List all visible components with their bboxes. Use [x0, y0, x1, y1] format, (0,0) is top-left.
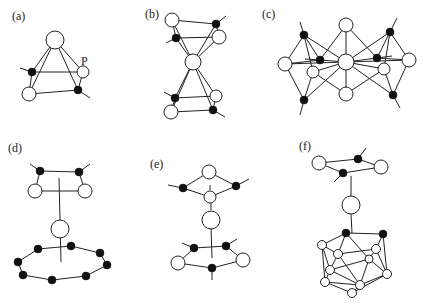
- panel-f: (f): [299, 139, 392, 298]
- filled-atom: [67, 242, 75, 250]
- filled-atom: [354, 155, 362, 163]
- filled-atom: [96, 249, 104, 257]
- panel-label-d: (d): [8, 141, 22, 155]
- filled-atom: [208, 264, 216, 272]
- open-atom: [339, 18, 353, 32]
- filled-atom: [339, 169, 347, 177]
- filled-atom: [222, 242, 230, 250]
- structure-diagram: (a) P (b): [0, 0, 425, 305]
- open-atom: [77, 66, 89, 78]
- filled-atom: [34, 245, 42, 253]
- filled-atom: [209, 106, 217, 114]
- open-atom: [46, 31, 64, 49]
- filled-atom: [74, 86, 82, 94]
- open-atom: [326, 266, 335, 275]
- panel-label-c: (c): [262, 7, 275, 21]
- panel-label-b: (b): [145, 7, 159, 21]
- open-atom: [204, 191, 216, 203]
- open-atom: [334, 250, 343, 259]
- filled-atom: [103, 261, 111, 269]
- filled-atom: [82, 272, 90, 280]
- panel-label-e: (e): [150, 157, 163, 171]
- filled-atom: [171, 94, 179, 102]
- panel-e: (e): [150, 157, 250, 280]
- open-atom: [171, 256, 185, 270]
- panel-d: (d): [8, 141, 111, 284]
- open-atom: [312, 156, 326, 170]
- open-atom: [165, 13, 179, 27]
- filled-atom: [172, 34, 180, 42]
- open-atom: [318, 241, 327, 250]
- panel-a: (a) P: [12, 9, 90, 101]
- filled-atom: [300, 96, 308, 104]
- open-atom-center: [51, 220, 69, 238]
- open-atom: [348, 289, 357, 298]
- filled-atom: [48, 276, 56, 284]
- panel-label-a: (a): [12, 9, 25, 23]
- filled-atom: [190, 244, 198, 252]
- open-atom: [164, 105, 178, 119]
- open-atom: [210, 90, 222, 102]
- open-atom: [185, 54, 201, 70]
- filled-atom: [36, 167, 44, 175]
- filled-atom: [389, 91, 397, 99]
- filled-atom: [179, 184, 187, 192]
- open-atom: [78, 184, 92, 198]
- filled-atom: [316, 56, 324, 64]
- filled-atom: [373, 54, 381, 62]
- open-atom: [383, 270, 392, 279]
- filled-atom: [19, 271, 27, 279]
- filled-atom: [75, 168, 83, 176]
- open-atom: [378, 63, 390, 75]
- filled-atom: [212, 20, 220, 28]
- panel-c: (c): [262, 7, 416, 115]
- open-atom: [236, 253, 250, 267]
- filled-atom: [386, 28, 394, 36]
- open-atom: [28, 184, 42, 198]
- open-atom: [374, 160, 388, 174]
- filled-atom: [342, 229, 350, 237]
- panel-label-f: (f): [299, 139, 311, 153]
- open-atom: [372, 245, 381, 254]
- panel-b: (b): [145, 7, 226, 119]
- open-atom: [278, 57, 292, 71]
- open-atom-center: [202, 211, 220, 229]
- filled-atom: [232, 182, 240, 190]
- open-atom: [339, 87, 353, 101]
- filled-atom: [28, 68, 36, 76]
- open-atom: [22, 87, 36, 101]
- open-atom: [402, 53, 416, 67]
- open-atom: [356, 281, 365, 290]
- open-atom: [307, 66, 319, 78]
- open-atom-center: [338, 54, 354, 70]
- filled-atom: [14, 258, 22, 266]
- open-atom: [202, 165, 216, 179]
- open-atom: [365, 255, 373, 263]
- open-atom: [212, 30, 226, 44]
- open-atom: [321, 278, 330, 287]
- filled-atom: [379, 230, 387, 238]
- filled-atom: [300, 31, 308, 39]
- open-atom-center: [342, 196, 360, 214]
